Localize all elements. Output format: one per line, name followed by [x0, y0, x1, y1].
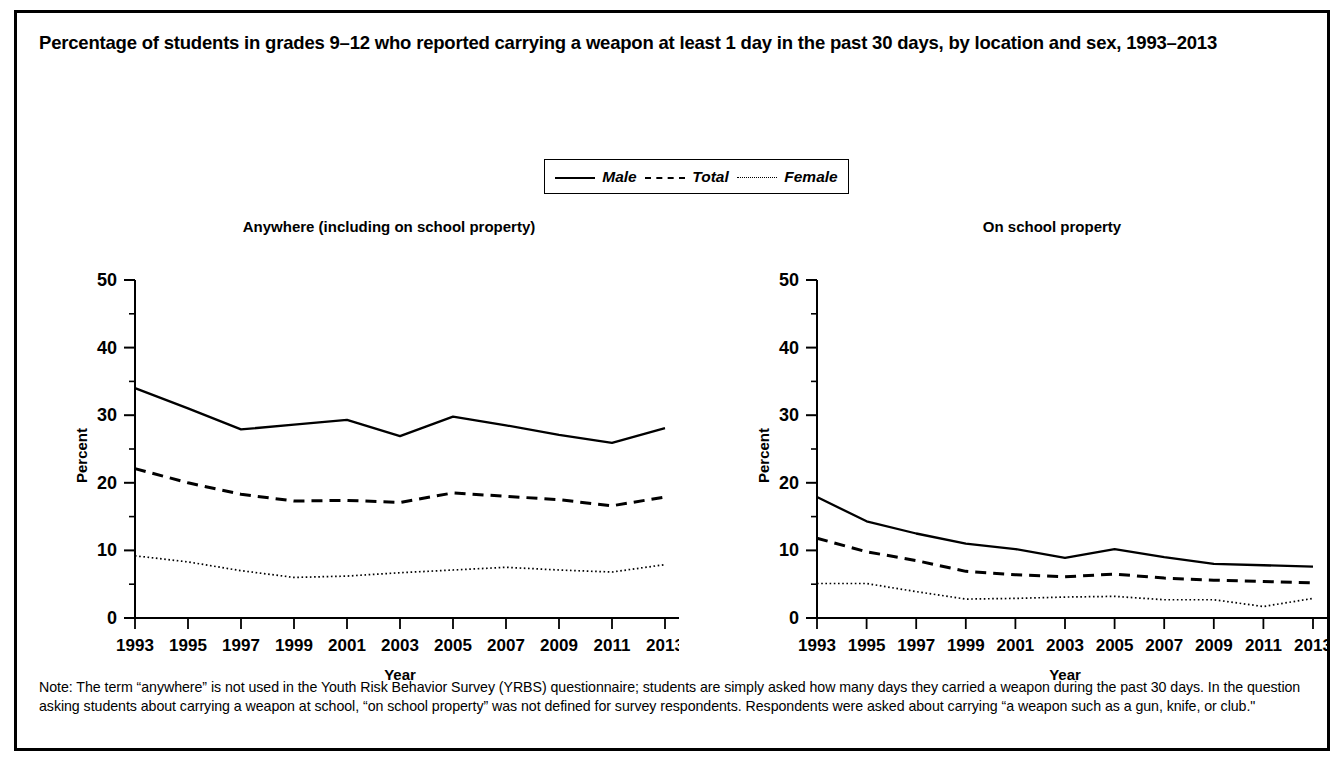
series-line-female	[135, 556, 665, 578]
svg-text:2001: 2001	[328, 636, 366, 655]
legend-label-male: Male	[602, 168, 636, 186]
series-line-total	[135, 469, 665, 506]
svg-text:50: 50	[97, 270, 117, 290]
svg-text:1997: 1997	[222, 636, 260, 655]
svg-text:1995: 1995	[848, 636, 886, 655]
legend-item-female: Female	[737, 168, 837, 186]
panel-subtitle-school: On school property	[707, 218, 1327, 235]
panel-subtitle-anywhere: Anywhere (including on school property)	[39, 218, 679, 235]
y-axis-title-anywhere: Percent	[73, 428, 90, 483]
legend-line-solid-icon	[555, 171, 595, 183]
svg-text:0: 0	[789, 608, 799, 628]
svg-text:2011: 2011	[1245, 636, 1282, 655]
svg-text:10: 10	[97, 540, 117, 560]
series-line-male	[135, 388, 665, 443]
svg-text:20: 20	[779, 473, 799, 493]
svg-text:2011: 2011	[594, 636, 631, 655]
svg-text:1995: 1995	[169, 636, 207, 655]
svg-text:2009: 2009	[1195, 636, 1233, 655]
svg-text:2013: 2013	[646, 636, 679, 655]
svg-text:2007: 2007	[487, 636, 525, 655]
series-line-female	[817, 584, 1313, 607]
svg-text:2005: 2005	[434, 636, 472, 655]
line-chart-school: 0102030405019931995199719992001200320052…	[707, 266, 1327, 666]
svg-text:1999: 1999	[947, 636, 985, 655]
svg-text:1993: 1993	[116, 636, 154, 655]
plot-area-school: 0102030405019931995199719992001200320052…	[707, 266, 1327, 666]
legend-label-total: Total	[692, 168, 728, 186]
svg-text:2009: 2009	[540, 636, 578, 655]
y-axis-title-school: Percent	[755, 428, 772, 483]
svg-text:2007: 2007	[1145, 636, 1183, 655]
svg-text:1993: 1993	[798, 636, 836, 655]
legend-label-female: Female	[784, 168, 837, 186]
svg-text:1997: 1997	[897, 636, 935, 655]
legend-line-dashed-icon	[645, 171, 685, 183]
legend-item-total: Total	[645, 168, 728, 186]
svg-text:2003: 2003	[1046, 636, 1084, 655]
chart-legend: Male Total Female	[544, 159, 849, 194]
svg-text:2003: 2003	[381, 636, 419, 655]
figure-title: Percentage of students in grades 9–12 wh…	[39, 31, 1304, 55]
svg-text:50: 50	[779, 270, 799, 290]
series-line-total	[817, 538, 1313, 583]
svg-text:2013: 2013	[1294, 636, 1327, 655]
svg-text:2001: 2001	[996, 636, 1034, 655]
svg-text:2005: 2005	[1096, 636, 1134, 655]
svg-text:0: 0	[107, 608, 117, 628]
svg-text:10: 10	[779, 540, 799, 560]
legend-item-male: Male	[555, 168, 636, 186]
svg-text:1999: 1999	[275, 636, 313, 655]
line-chart-anywhere: 0102030405019931995199719992001200320052…	[39, 266, 679, 666]
svg-text:40: 40	[779, 338, 799, 358]
svg-text:30: 30	[779, 405, 799, 425]
figure-frame: Percentage of students in grades 9–12 wh…	[14, 10, 1330, 751]
svg-text:40: 40	[97, 338, 117, 358]
legend-line-dotted-icon	[737, 171, 777, 183]
plot-area-anywhere: 0102030405019931995199719992001200320052…	[39, 266, 679, 666]
svg-text:30: 30	[97, 405, 117, 425]
figure-note: Note: The term “anywhere” is not used in…	[39, 678, 1309, 716]
svg-text:20: 20	[97, 473, 117, 493]
